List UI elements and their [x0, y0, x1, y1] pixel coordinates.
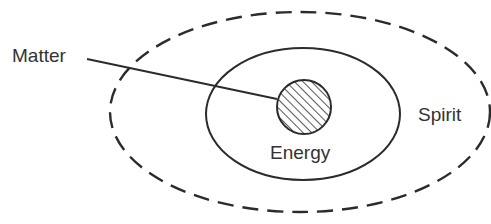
- matter-label: Matter: [12, 45, 67, 66]
- matter-core-circle: [277, 80, 331, 134]
- matter-leader-line: [87, 59, 277, 99]
- energy-label: Energy: [270, 142, 331, 163]
- spirit-label: Spirit: [418, 104, 462, 125]
- matter-energy-spirit-diagram: Matter Energy Spirit: [0, 0, 491, 224]
